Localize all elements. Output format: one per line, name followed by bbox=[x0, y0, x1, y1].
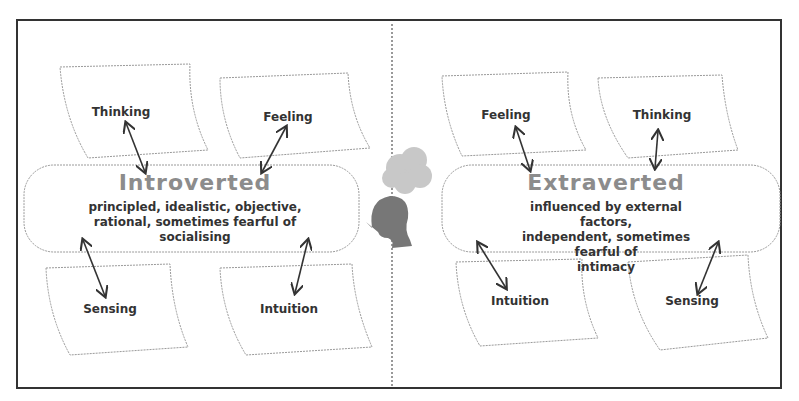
desc-line: socialising bbox=[88, 230, 301, 245]
introverted-title: Introverted bbox=[119, 170, 272, 195]
node-intuition-right: Intuition bbox=[491, 294, 549, 308]
desc-line: rational, sometimes fearful of bbox=[88, 215, 301, 230]
node-feeling-right: Feeling bbox=[481, 108, 530, 122]
desc-line: principled, idealistic, objective, bbox=[88, 200, 301, 215]
desc-line: independent, sometimes fearful of bbox=[510, 230, 703, 260]
node-sensing-left: Sensing bbox=[83, 302, 137, 316]
node-sensing-right: Sensing bbox=[665, 294, 719, 308]
introverted-description: principled, idealistic, objective, ratio… bbox=[88, 200, 301, 245]
extraverted-description: influenced by external factors, independ… bbox=[510, 200, 703, 275]
desc-line: intimacy bbox=[510, 260, 703, 275]
extraverted-title: Extraverted bbox=[527, 170, 685, 195]
node-intuition-left: Intuition bbox=[260, 302, 318, 316]
desc-line: influenced by external factors, bbox=[510, 200, 703, 230]
head-with-thought-cloud-icon bbox=[366, 147, 432, 248]
node-thinking-right: Thinking bbox=[633, 108, 692, 122]
node-thinking-left: Thinking bbox=[92, 105, 151, 119]
node-feeling-left: Feeling bbox=[263, 110, 312, 124]
